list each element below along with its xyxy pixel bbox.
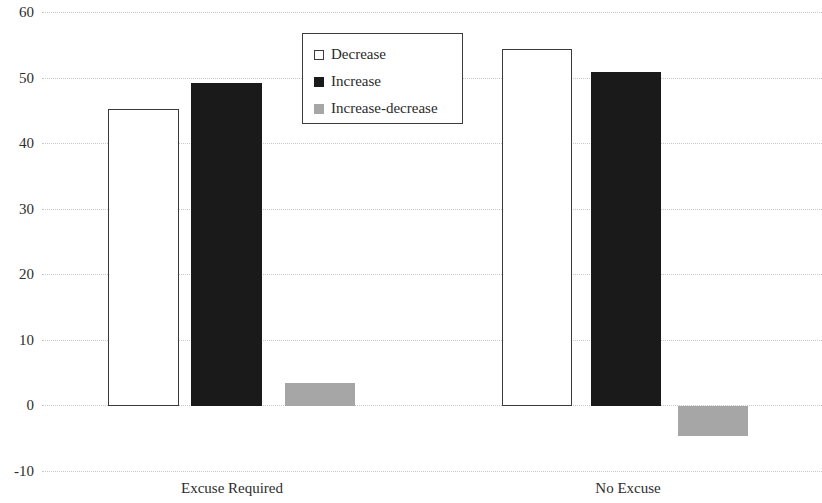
gridline-neg10 — [42, 471, 822, 472]
y-axis-label-20: 20 — [0, 267, 34, 282]
gridline-60 — [42, 12, 822, 13]
bar-no-excuse-increase-decrease — [678, 406, 748, 436]
bar-no-excuse-increase — [591, 72, 661, 406]
y-axis-label-10: 10 — [0, 333, 34, 348]
y-axis-label-50: 50 — [0, 71, 34, 86]
legend-item-decrease: Decrease — [314, 41, 462, 68]
bar-excuse-required-decrease — [108, 109, 179, 406]
legend-item-increase: Increase — [314, 68, 462, 95]
bar-excuse-required-increase-decrease — [285, 383, 355, 406]
legend-item-increase-decrease: Increase-decrease — [314, 95, 462, 122]
chart-legend: Decrease Increase Increase-decrease — [302, 33, 463, 124]
legend-label-decrease: Decrease — [331, 47, 386, 62]
legend-label-increase: Increase — [331, 74, 381, 89]
bar-chart: 60 50 40 30 20 10 0 -10 Excuse Required … — [0, 0, 822, 503]
legend-swatch-increase-icon — [314, 77, 324, 87]
legend-label-increase-decrease: Increase-decrease — [331, 101, 438, 116]
bar-excuse-required-increase — [191, 83, 262, 406]
bar-no-excuse-decrease — [502, 49, 572, 406]
x-axis-label-no-excuse: No Excuse — [538, 481, 718, 496]
legend-swatch-increase-decrease-icon — [314, 104, 324, 114]
y-axis-label-neg10: -10 — [0, 464, 34, 479]
legend-swatch-decrease-icon — [314, 50, 324, 60]
y-axis-label-30: 30 — [0, 202, 34, 217]
y-axis-label-40: 40 — [0, 136, 34, 151]
x-axis-label-excuse-required: Excuse Required — [142, 481, 322, 496]
y-axis-label-60: 60 — [0, 5, 34, 20]
y-axis-label-0: 0 — [0, 398, 34, 413]
